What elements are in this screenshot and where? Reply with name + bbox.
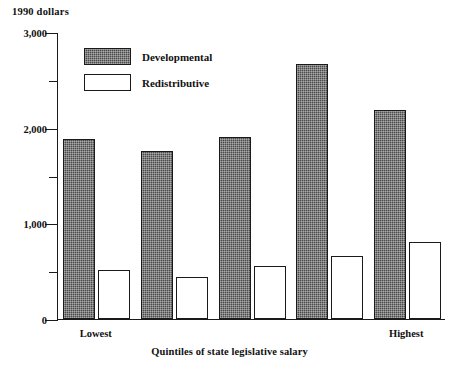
x-axis-category-label: Highest — [389, 328, 423, 339]
chart-legend: Developmental Redistributive — [84, 48, 212, 100]
bar-developmental — [63, 139, 95, 319]
legend-item-developmental: Developmental — [84, 48, 212, 65]
legend-label-redistributive: Redistributive — [142, 77, 209, 89]
legend-item-redistributive: Redistributive — [84, 74, 212, 91]
bar-redistributive — [176, 277, 208, 319]
bar-developmental — [374, 110, 406, 320]
legend-swatch-developmental — [84, 48, 131, 65]
x-axis-title: Quintiles of state legislative salary — [0, 346, 459, 357]
y-axis-tick-minor — [49, 177, 58, 178]
bar-redistributive — [331, 256, 363, 319]
legend-label-developmental: Developmental — [142, 51, 212, 63]
bar-developmental — [141, 151, 173, 319]
bar-redistributive — [409, 242, 441, 319]
y-axis-unit-label: 1990 dollars — [12, 6, 69, 17]
y-axis-tick-label: 2,000 — [0, 123, 47, 134]
bar-developmental — [219, 137, 251, 319]
bar-developmental — [296, 64, 328, 319]
y-axis-tick-label: 1,000 — [0, 219, 47, 230]
bar-redistributive — [254, 266, 286, 319]
bar-chart-figure: 1990 dollars Quintiles of state legislat… — [0, 0, 459, 374]
y-axis-tick-label: 0 — [0, 315, 47, 326]
legend-swatch-redistributive — [84, 74, 131, 91]
y-axis-tick-label: 3,000 — [0, 28, 47, 39]
bar-redistributive — [98, 270, 130, 319]
x-axis-category-label: Lowest — [80, 328, 112, 339]
y-axis-tick-minor — [49, 81, 58, 82]
y-axis-tick-minor — [49, 272, 58, 273]
